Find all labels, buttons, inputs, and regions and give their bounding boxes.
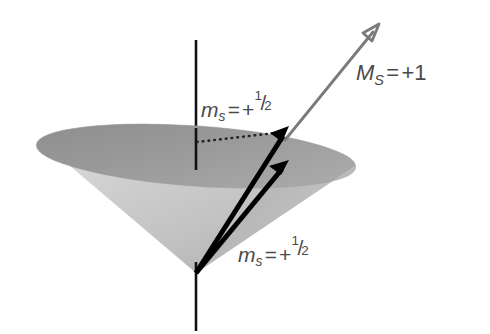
label-resultant-MS: MS=+1 [356, 62, 426, 87]
label-ms-lower-denominator: 2 [301, 244, 308, 257]
label-ms-upper-symbol: m [201, 98, 219, 121]
label-ms-lower: ms=+1/2 [238, 241, 314, 269]
label-ms-upper-equals: = [226, 98, 242, 121]
label-ms-upper-denominator: 2 [264, 99, 271, 112]
label-ms-upper: ms=+1/2 [201, 96, 277, 124]
label-ms-lower-sign: + [279, 243, 291, 266]
spin-vector-cone-figure: ms=+1/2 ms=+1/2 MS=+1 [0, 0, 490, 334]
label-MS-subscript: S [374, 72, 384, 88]
label-ms-upper-fraction: 1/2 [254, 96, 277, 117]
label-ms-lower-fraction: 1/2 [291, 241, 314, 262]
label-ms-lower-equals: = [263, 243, 279, 266]
label-MS-value: +1 [401, 60, 426, 85]
label-ms-lower-subscript: s [256, 253, 263, 269]
cone-diagram-canvas [0, 0, 490, 334]
label-ms-upper-subscript: s [219, 108, 226, 124]
label-MS-symbol: M [356, 60, 374, 85]
label-ms-lower-symbol: m [238, 243, 256, 266]
label-MS-equals: = [384, 60, 401, 85]
label-ms-upper-sign: + [242, 98, 254, 121]
